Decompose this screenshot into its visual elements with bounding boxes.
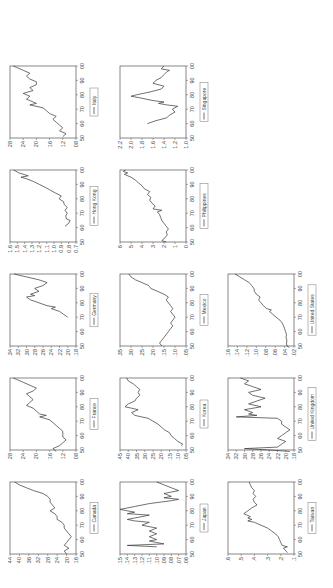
y-tick-label: 1.2 <box>172 141 178 149</box>
legend-label: France <box>91 403 97 419</box>
y-tick-label: .28 <box>32 349 38 357</box>
y-tick-label: .26 <box>258 453 264 461</box>
x-tick-label: 00 <box>297 375 303 381</box>
y-tick-label: .3 <box>265 557 271 562</box>
x-tick-label: 00 <box>189 271 195 277</box>
series-line <box>235 274 289 347</box>
chart-panel-germany: .18.20.22.24.26.28.30.32.34506070809000G… <box>8 270 110 362</box>
plot-frame <box>120 170 186 242</box>
y-tick-label: .07 <box>176 557 182 565</box>
x-tick-label: 80 <box>79 92 85 98</box>
x-tick-label: 50 <box>79 239 85 245</box>
chart-panel-united-kingdom: .18.20.22.24.26.28.30.32.34506070809000U… <box>226 374 328 466</box>
y-tick-label: .22 <box>57 349 63 357</box>
x-tick-label: 80 <box>297 300 303 306</box>
y-tick-label: 2 <box>161 245 167 248</box>
x-tick-label: 70 <box>79 106 85 112</box>
x-tick-label: 90 <box>79 493 85 499</box>
y-tick-label: .28 <box>250 453 256 461</box>
x-tick-label: 90 <box>189 389 195 395</box>
x-tick-label: 80 <box>189 196 195 202</box>
plot-frame <box>10 66 76 138</box>
x-tick-label: 60 <box>79 537 85 543</box>
y-tick-label: .02 <box>291 349 297 357</box>
y-tick-label: 16 <box>47 453 53 459</box>
y-tick-label: 6 <box>117 245 123 248</box>
legend-label: Germany <box>91 295 97 316</box>
y-tick-label: .35 <box>134 453 140 461</box>
y-tick-label: .06 <box>272 349 278 357</box>
x-tick-label: 80 <box>189 404 195 410</box>
x-tick-label: 80 <box>79 508 85 514</box>
y-tick-label: .12 <box>139 557 145 565</box>
y-tick-label: 5 <box>128 245 134 248</box>
chart-panel-united-states: .02.04.06.08.10.12.14.16506070809000Unit… <box>226 270 328 362</box>
y-tick-label: 28 <box>7 141 13 147</box>
y-tick-label: .10 <box>253 349 259 357</box>
y-tick-label: .06 <box>183 557 189 565</box>
x-tick-label: 50 <box>189 135 195 141</box>
legend-label: Japan <box>201 507 207 521</box>
y-tick-label: 0.8 <box>66 245 72 253</box>
x-tick-label: 90 <box>297 285 303 291</box>
x-tick-label: 60 <box>189 537 195 543</box>
x-tick-label: 60 <box>189 329 195 335</box>
series-line <box>131 66 178 124</box>
series-line <box>123 170 168 242</box>
x-tick-label: 90 <box>297 493 303 499</box>
y-tick-label: 1.1 <box>44 245 50 253</box>
y-tick-label: .2 <box>278 557 284 562</box>
y-tick-label: .25 <box>150 453 156 461</box>
y-tick-label: 24 <box>20 141 26 147</box>
x-tick-label: 00 <box>79 63 85 69</box>
y-tick-label: .35 <box>117 349 123 357</box>
x-tick-label: 90 <box>189 77 195 83</box>
legend-label: Mexico <box>201 298 207 314</box>
series-line <box>14 170 70 226</box>
plot-frame <box>10 378 76 450</box>
y-tick-label: .34 <box>225 453 231 461</box>
y-tick-label: .10 <box>175 453 181 461</box>
x-tick-label: 80 <box>189 92 195 98</box>
plot-frame <box>120 482 186 554</box>
y-tick-label: .12 <box>244 349 250 357</box>
y-tick-label: .16 <box>225 349 231 357</box>
x-tick-label: 50 <box>189 239 195 245</box>
x-tick-label: 00 <box>189 479 195 485</box>
y-tick-label: .32 <box>15 349 21 357</box>
series-line <box>129 274 175 346</box>
x-tick-label: 70 <box>79 522 85 528</box>
x-tick-label: 00 <box>79 167 85 173</box>
x-tick-label: 80 <box>79 404 85 410</box>
y-tick-label: 1.6 <box>150 141 156 149</box>
y-tick-label: 36 <box>26 557 32 563</box>
y-tick-label: .08 <box>263 349 269 357</box>
y-tick-label: .18 <box>73 349 79 357</box>
series-line <box>14 274 68 317</box>
y-tick-label: 0.9 <box>58 245 64 253</box>
y-tick-label: .40 <box>125 453 131 461</box>
plot-frame <box>120 274 186 346</box>
y-tick-label: .14 <box>234 349 240 357</box>
x-tick-label: 50 <box>79 343 85 349</box>
y-tick-label: .22 <box>275 453 281 461</box>
y-tick-label: .24 <box>48 349 54 357</box>
y-tick-label: .14 <box>124 557 130 565</box>
x-tick-label: 70 <box>189 314 195 320</box>
x-tick-label: 80 <box>189 508 195 514</box>
x-tick-label: 70 <box>297 314 303 320</box>
x-tick-label: 50 <box>189 343 195 349</box>
y-tick-label: 32 <box>35 557 41 563</box>
x-tick-label: 60 <box>189 225 195 231</box>
series-line <box>236 378 290 451</box>
plot-frame <box>228 274 294 346</box>
plot-frame <box>120 378 186 450</box>
x-tick-label: 00 <box>297 479 303 485</box>
x-tick-label: 70 <box>297 522 303 528</box>
y-tick-label: .26 <box>40 349 46 357</box>
y-tick-label: .10 <box>154 557 160 565</box>
x-tick-label: 70 <box>79 314 85 320</box>
legend-label: Korea <box>201 403 207 417</box>
y-tick-label: .11 <box>146 557 152 564</box>
y-tick-label: 1.6 <box>7 245 13 253</box>
